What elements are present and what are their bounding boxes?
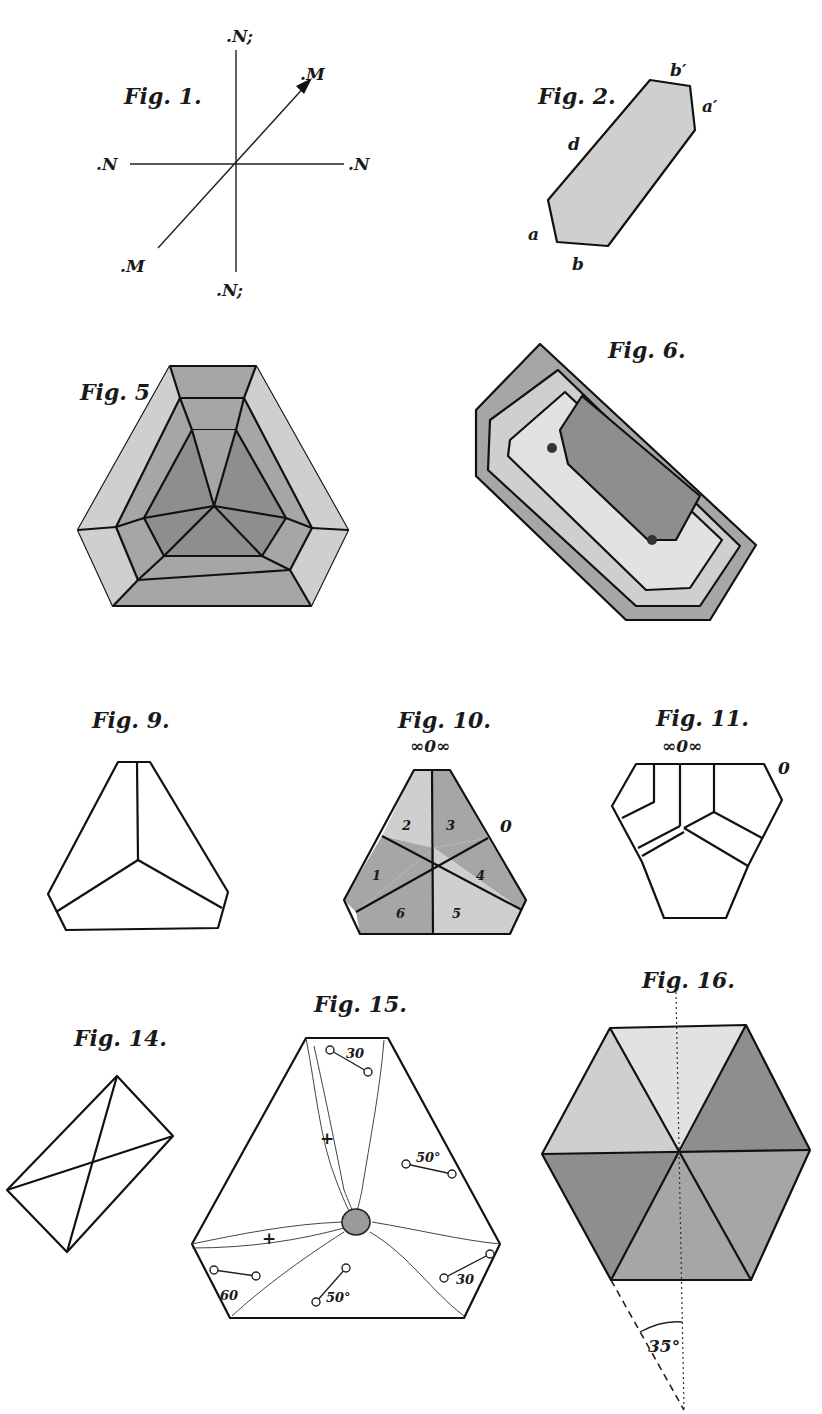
fig10-sector-label-6: 6: [396, 906, 405, 921]
fig10-sector-label-1: 1: [372, 868, 381, 883]
fig10-sector-3: [432, 770, 488, 848]
figure-11: Fig. 11. ∞0∞ 0: [612, 705, 790, 918]
figure-10: Fig. 10. ∞0∞ 0 2 3 1 4 6 5: [344, 707, 526, 934]
fig10-sector-label-2: 2: [401, 818, 411, 833]
fig14-caption: Fig. 14.: [73, 1025, 167, 1051]
fig2-label-d: d: [568, 134, 580, 154]
fig15-angle-lower-right: 30: [456, 1272, 474, 1287]
fig10-caption: Fig. 10.: [397, 707, 491, 733]
crystal-plate: Fig. 1. .N; .N; .N .N .M .M Fig. 2. b′ a…: [0, 0, 822, 1414]
fig10-sector-label-4: 4: [476, 868, 485, 883]
fig6-inclusion-1: [547, 443, 557, 453]
fig11-side-label: 0: [778, 758, 790, 778]
fig16-angle-arc: [640, 1322, 682, 1332]
figure-2: Fig. 2. b′ a′ d a b: [528, 60, 718, 274]
fig9-caption: Fig. 9.: [91, 707, 170, 733]
fig1-label-right: .N: [348, 154, 371, 174]
fig2-label-a: a: [528, 224, 539, 244]
fig11-caption: Fig. 11.: [655, 705, 749, 731]
figure-14: Fig. 14.: [7, 1025, 173, 1252]
fig11-top-label: ∞0∞: [662, 736, 702, 756]
fig1-label-arrow-head: .M: [300, 64, 326, 84]
figure-15: Fig. 15. 30 50° 30 50°: [192, 991, 500, 1318]
figure-16: Fig. 16. 35°: [542, 967, 810, 1410]
fig15-angle-right: 50°: [416, 1150, 441, 1165]
fig2-caption: Fig. 2.: [537, 83, 616, 109]
fig2-label-a-prime: a′: [702, 96, 718, 116]
fig10-sector-label-5: 5: [452, 906, 461, 921]
fig1-label-bottom: .N;: [216, 280, 243, 300]
fig15-cross-mark-1: +: [320, 1128, 334, 1148]
fig16-angle-label: 35°: [648, 1336, 680, 1356]
fig5-caption: Fig. 5.: [79, 379, 158, 405]
fig16-caption: Fig. 16.: [641, 967, 735, 993]
fig15-axis-pair-lower-left: [210, 1266, 260, 1280]
fig15-angle-top: 30: [346, 1046, 364, 1061]
fig15-central-inclusion: [342, 1209, 370, 1235]
fig11-outline: [612, 764, 782, 918]
fig1-label-left: .N: [96, 154, 119, 174]
fig2-label-b-prime: b′: [670, 60, 687, 80]
fig6-inclusion-2: [647, 535, 657, 545]
fig15-caption: Fig. 15.: [313, 991, 407, 1017]
figure-9: Fig. 9.: [48, 707, 228, 930]
fig1-label-arrow-tail: .M: [120, 256, 146, 276]
fig1-label-top: .N;: [226, 26, 253, 46]
fig10-top-label: ∞0∞: [410, 736, 450, 756]
fig10-sector-label-3: 3: [446, 818, 455, 833]
fig15-angle-bottom: 50°: [326, 1290, 351, 1305]
fig15-angle-lower-left: 60: [220, 1288, 238, 1303]
fig10-side-label: 0: [500, 816, 512, 836]
fig2-label-b: b: [572, 254, 584, 274]
figure-1: Fig. 1. .N; .N; .N .N .M .M: [96, 26, 371, 300]
figure-6: Fig. 6.: [476, 337, 756, 620]
fig15-cross-mark-2: +: [262, 1228, 276, 1248]
fig6-caption: Fig. 6.: [607, 337, 686, 363]
figure-5: Fig. 5.: [78, 366, 348, 606]
fig1-caption: Fig. 1.: [123, 83, 202, 109]
